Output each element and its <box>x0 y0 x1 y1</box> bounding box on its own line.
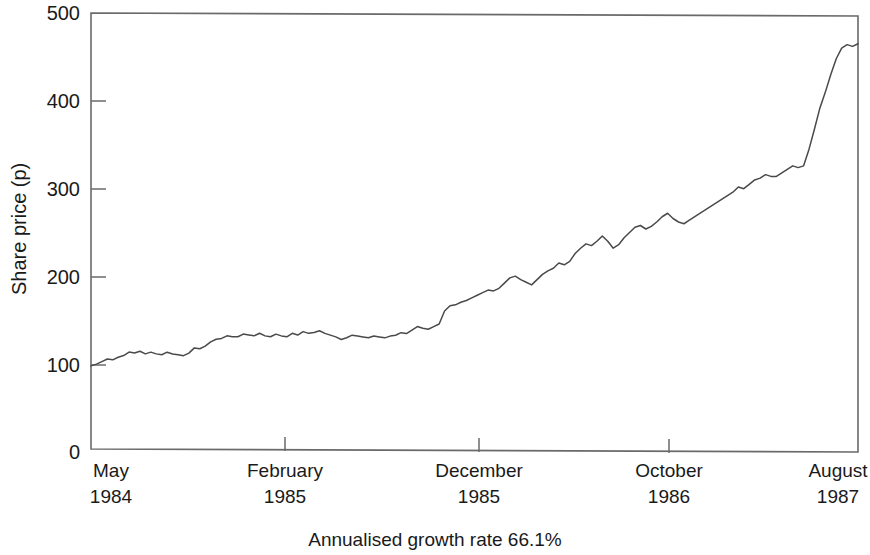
x-tick-label-4-month: August <box>808 460 868 481</box>
x-tick-label-1-month: February <box>247 460 324 481</box>
x-tick-label-3-month: October <box>635 460 703 481</box>
y-tick-label-0: 0 <box>69 441 80 463</box>
y-axis-title: Share price (p) <box>8 163 30 295</box>
share-price-chart: Share price (p) 500 400 300 200 100 0 Ma… <box>0 0 870 555</box>
y-tick-label-200: 200 <box>47 266 80 288</box>
chart-canvas: Share price (p) 500 400 300 200 100 0 Ma… <box>0 0 870 555</box>
y-tick-label-300: 300 <box>47 178 80 200</box>
y-tick-label-100: 100 <box>47 354 80 376</box>
x-tick-label-2-year: 1985 <box>458 486 500 507</box>
x-tick-label-4-year: 1987 <box>817 486 859 507</box>
plot-frame <box>91 13 858 452</box>
y-tick-label-400: 400 <box>47 90 80 112</box>
x-tick-label-2-month: December <box>435 460 523 481</box>
y-tick-label-500: 500 <box>47 2 80 24</box>
series-line-share-price <box>91 44 858 366</box>
chart-caption: Annualised growth rate 66.1% <box>308 529 562 550</box>
x-tick-label-0-year: 1984 <box>90 486 133 507</box>
x-tick-label-3-year: 1986 <box>648 486 690 507</box>
x-tick-label-1-year: 1985 <box>264 486 306 507</box>
x-tick-label-0-month: May <box>93 460 129 481</box>
